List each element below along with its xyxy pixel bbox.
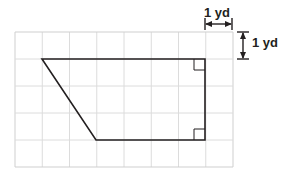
- height-dimension-label: 1 yd: [252, 36, 278, 49]
- figure-canvas: 1 yd 1 yd: [0, 0, 294, 173]
- height-dimension-arrow: [237, 32, 249, 59]
- geometry-figure: [0, 0, 294, 173]
- top-right-angle-marker: [194, 59, 205, 70]
- grid-group: [15, 32, 233, 167]
- grid-vertical-lines: [15, 32, 233, 167]
- bottom-right-angle-marker: [194, 129, 205, 140]
- width-dimension-label: 1 yd: [204, 6, 230, 19]
